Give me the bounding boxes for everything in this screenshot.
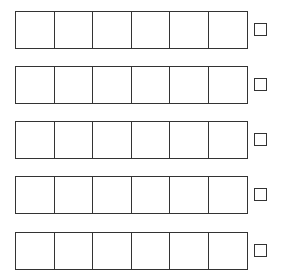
cell-strip-2 bbox=[15, 66, 248, 104]
terminal-square bbox=[254, 244, 267, 257]
grid-cell bbox=[131, 66, 171, 104]
grid-cell bbox=[208, 66, 248, 104]
grid-cell bbox=[92, 232, 132, 270]
grid-cell bbox=[15, 66, 55, 104]
terminal-square bbox=[254, 78, 267, 91]
grid-cell bbox=[54, 176, 94, 214]
terminal-square bbox=[254, 133, 267, 146]
grid-cell bbox=[131, 176, 171, 214]
grid-cell bbox=[208, 11, 248, 49]
grid-cell bbox=[169, 11, 209, 49]
grid-cell bbox=[92, 11, 132, 49]
cell-strip-3 bbox=[15, 121, 248, 159]
grid-cell bbox=[92, 176, 132, 214]
grid-cell bbox=[92, 66, 132, 104]
grid-cell bbox=[54, 232, 94, 270]
cell-strip-4 bbox=[15, 176, 248, 214]
grid-cell bbox=[15, 176, 55, 214]
grid-cell bbox=[131, 232, 171, 270]
terminal-square bbox=[254, 188, 267, 201]
grid-cell bbox=[92, 121, 132, 159]
grid-cell bbox=[54, 11, 94, 49]
terminal-square bbox=[254, 23, 267, 36]
grid-cell bbox=[15, 121, 55, 159]
grid-cell bbox=[169, 176, 209, 214]
cell-strip-1 bbox=[15, 11, 248, 49]
grid-cell bbox=[131, 121, 171, 159]
grid-cell bbox=[169, 66, 209, 104]
grid-cell bbox=[169, 232, 209, 270]
cell-strip-5 bbox=[15, 232, 248, 270]
grid-cell bbox=[54, 121, 94, 159]
grid-cell bbox=[54, 66, 94, 104]
grid-cell bbox=[15, 11, 55, 49]
grid-cell bbox=[131, 11, 171, 49]
grid-cell bbox=[208, 121, 248, 159]
grid-cell bbox=[15, 232, 55, 270]
grid-cell bbox=[169, 121, 209, 159]
grid-cell bbox=[208, 176, 248, 214]
grid-cell bbox=[208, 232, 248, 270]
